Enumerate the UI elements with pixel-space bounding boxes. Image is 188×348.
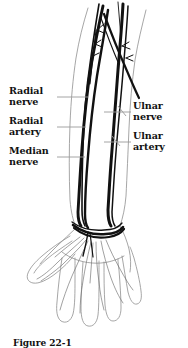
label-median-nerve-line2: nerve bbox=[9, 157, 49, 168]
figure-caption: Figure 22-1 bbox=[13, 338, 72, 348]
label-radial-nerve-line1: Radial bbox=[9, 86, 43, 97]
finger-ring bbox=[104, 259, 121, 321]
label-ulnar-artery-line1: Ulnar bbox=[133, 131, 165, 142]
label-median-nerve-line1: Median bbox=[9, 146, 49, 157]
label-ulnar-artery: Ulnar artery bbox=[133, 131, 165, 152]
finger-little bbox=[122, 247, 141, 304]
finger-middle bbox=[81, 261, 99, 326]
label-radial-artery: Radial artery bbox=[9, 116, 43, 137]
label-ulnar-artery-line2: artery bbox=[133, 142, 165, 153]
label-radial-nerve-line2: nerve bbox=[9, 97, 43, 108]
label-median-nerve: Median nerve bbox=[9, 146, 49, 167]
label-radial-artery-line1: Radial bbox=[9, 116, 43, 127]
label-ulnar-nerve-line2: nerve bbox=[133, 112, 163, 123]
label-ulnar-nerve-line1: Ulnar bbox=[133, 101, 163, 112]
label-radial-artery-line2: artery bbox=[9, 127, 43, 138]
anatomy-figure: Radial nerve Radial artery Median nerve … bbox=[0, 0, 188, 348]
label-radial-nerve: Radial nerve bbox=[9, 86, 43, 107]
label-ulnar-nerve: Ulnar nerve bbox=[133, 101, 163, 122]
forearm-anatomy-illustration bbox=[0, 0, 188, 348]
